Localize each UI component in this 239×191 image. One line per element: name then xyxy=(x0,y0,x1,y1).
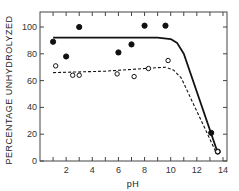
scatter-plot: 2468101214020406080100 pH PERCENTAGE UNH… xyxy=(0,0,239,191)
x-axis-title: pH xyxy=(127,179,140,189)
chart: 2468101214020406080100 pH PERCENTAGE UNH… xyxy=(0,0,239,191)
x-tick-label: 10 xyxy=(166,165,176,175)
y-tick-label: 60 xyxy=(27,76,37,86)
filled-circle-point xyxy=(116,50,121,55)
open-circle-point xyxy=(216,149,220,153)
open-circle-point xyxy=(70,73,74,77)
filled-circle-point xyxy=(50,39,55,44)
x-tick-label: 14 xyxy=(218,165,228,175)
y-tick-label: 80 xyxy=(27,49,37,59)
open-circle-point xyxy=(166,58,170,62)
x-tick-label: 4 xyxy=(90,165,95,175)
x-tick-label: 6 xyxy=(116,165,121,175)
plot-frame xyxy=(40,12,227,161)
open-circle-point xyxy=(77,73,81,77)
fit-curves xyxy=(53,38,218,153)
filled-circle-point xyxy=(163,23,168,28)
x-tick-label: 8 xyxy=(142,165,147,175)
solid-curve xyxy=(53,38,218,153)
filled-circle-point xyxy=(129,42,134,47)
filled-circle-point xyxy=(209,130,214,135)
x-tick-label: 12 xyxy=(192,165,202,175)
filled-circle-point xyxy=(64,54,69,59)
y-tick-label: 20 xyxy=(27,129,37,139)
y-axis-title: PERCENTAGE UNHYDROLYZED xyxy=(4,15,14,164)
y-tick-label: 0 xyxy=(32,156,37,166)
open-circle-point xyxy=(146,66,150,70)
open-circle-point xyxy=(132,74,136,78)
filled-circle-point xyxy=(142,23,147,28)
y-tick-label: 40 xyxy=(27,102,37,112)
open-circle-point xyxy=(53,64,57,68)
x-tick-label: 2 xyxy=(64,165,69,175)
open-circle-point xyxy=(115,72,119,76)
y-tick-label: 100 xyxy=(22,22,37,32)
filled-circle-point xyxy=(77,24,82,29)
